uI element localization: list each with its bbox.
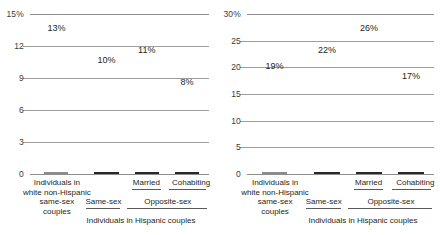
bar-rect [314, 172, 339, 174]
category-label-same-sex: Same-sex [82, 197, 125, 207]
ytick-label-6: 6 [19, 105, 24, 115]
bar-value-label: 22% [300, 45, 353, 55]
label-line: white non-Hispanic [9, 188, 106, 198]
bar-series-left: 13% 10% 11% 8% [30, 14, 209, 174]
ytick-label-12: 12 [14, 41, 24, 51]
category-labels-left: Individuals in white non-Hispanic same-s… [30, 176, 209, 234]
bar-value-label: 8% [161, 77, 213, 87]
ytick-label-10: 10 [231, 116, 241, 126]
plot-area-right: 30% 25 20 15 10 5 0 19% [247, 14, 434, 174]
bar-rect [262, 172, 287, 174]
ytick-label-3: 3 [19, 137, 24, 147]
label-line: Cohabiting [164, 178, 218, 188]
label-line: Opposite-sex [132, 197, 204, 207]
category-label-married: Married [125, 178, 168, 188]
ytick-label-30: 30% [223, 9, 241, 19]
category-label-opposite-sex: Opposite-sex [132, 197, 204, 207]
bar-value-label: 10% [80, 55, 132, 65]
category-labels-right: Individuals in white non-Hispanic same-s… [247, 176, 434, 234]
category-label-same-sex: Same-sex [301, 197, 346, 207]
rule-cohabiting [169, 189, 207, 190]
bar-value-label: 19% [248, 61, 301, 71]
label-line: Opposite-sex [354, 197, 429, 207]
bar-value-label: 17% [384, 71, 437, 81]
label-line: Individuals in Hispanic couples [292, 216, 434, 226]
ytick-label-15: 15 [231, 89, 241, 99]
category-label-cohabiting: Cohabiting [164, 178, 218, 188]
ytick-label-20: 20 [231, 62, 241, 72]
label-line: Married [346, 178, 391, 188]
label-line: Same-sex [301, 197, 346, 207]
category-label-cohabiting: Cohabiting [387, 178, 440, 188]
rule-cohabiting [392, 189, 431, 190]
bar-hispanic-same-sex: 10% [94, 67, 118, 174]
rule-opposite-sex [348, 208, 432, 209]
ytick-label-15: 15% [6, 9, 24, 19]
bar-white-non-hispanic-same-sex: 19% [262, 73, 287, 174]
rule-same-sex [306, 208, 342, 209]
bar-rect [44, 172, 68, 174]
ytick-label-25: 25 [231, 36, 241, 46]
bar-hispanic-opposite-sex-married: 11% [135, 57, 159, 174]
bar-rect [94, 172, 118, 174]
label-line: Individuals in [9, 178, 106, 188]
axis-baseline [30, 174, 209, 175]
two-panel-bar-chart-figure: 15% 12 9 6 3 0 13% 10% [0, 0, 440, 235]
bar-hispanic-opposite-sex-cohabiting: 17% [398, 83, 423, 174]
bar-series-right: 19% 22% 26% 17% [247, 14, 434, 174]
bar-rect [356, 172, 381, 174]
bar-value-label: 26% [342, 23, 395, 33]
label-line: Individuals in Hispanic couples [73, 216, 209, 226]
category-label-hispanic-couples: Individuals in Hispanic couples [73, 216, 209, 226]
bar-white-non-hispanic-same-sex: 13% [44, 35, 68, 174]
category-label-married: Married [346, 178, 391, 188]
category-label-hispanic-couples: Individuals in Hispanic couples [292, 216, 434, 226]
label-line: Cohabiting [387, 178, 440, 188]
bar-rect [175, 172, 199, 174]
rule-married [354, 189, 384, 190]
rule-same-sex [86, 208, 120, 209]
bar-value-label: 11% [121, 45, 173, 55]
axis-baseline [247, 174, 434, 175]
rule-opposite-sex [127, 208, 208, 209]
ytick-label-9: 9 [19, 73, 24, 83]
label-line: Married [125, 178, 168, 188]
rule-married [132, 189, 161, 190]
chart-panel-left: 15% 12 9 6 3 0 13% 10% [0, 0, 215, 235]
bar-rect [135, 172, 159, 174]
bar-hispanic-same-sex: 22% [314, 57, 339, 174]
category-label-opposite-sex: Opposite-sex [354, 197, 429, 207]
chart-panel-right: 30% 25 20 15 10 5 0 19% [215, 0, 440, 235]
bar-hispanic-opposite-sex-married: 26% [356, 35, 381, 174]
label-line: white non-Hispanic [225, 188, 326, 198]
label-line: Same-sex [82, 197, 125, 207]
bar-hispanic-opposite-sex-cohabiting: 8% [175, 89, 199, 174]
ytick-label-5: 5 [236, 142, 241, 152]
bar-value-label: 13% [30, 23, 82, 33]
plot-area-left: 15% 12 9 6 3 0 13% 10% [30, 14, 209, 174]
label-line: Individuals in [225, 178, 326, 188]
bar-rect [398, 172, 423, 174]
